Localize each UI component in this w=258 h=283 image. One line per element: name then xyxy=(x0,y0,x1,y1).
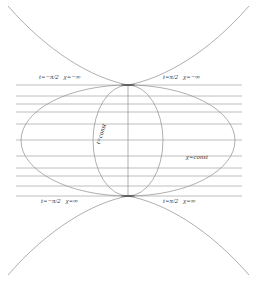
label-top-left-t: t=−π/2 xyxy=(39,73,59,80)
label-bottom-left: t=−π/2χ=∞ xyxy=(41,198,78,205)
label-top-right: t=π/2χ=−∞ xyxy=(163,74,200,81)
label-chi-const: χ=const xyxy=(186,154,208,161)
confocal-hyperbolas xyxy=(8,6,249,275)
hyperbola-t-const-lower-left xyxy=(8,196,128,275)
label-bottom-left-t: t=−π/2 xyxy=(41,197,61,204)
label-bottom-right-chi: χ=∞ xyxy=(183,197,195,204)
node-top xyxy=(121,84,135,86)
node-bottom xyxy=(121,195,135,197)
label-top-right-t: t=π/2 xyxy=(163,73,178,80)
horizontal-coordinate-lines xyxy=(16,85,242,196)
label-top-left: t=−π/2χ=−∞ xyxy=(39,74,81,81)
hyperbola-t-const-lower-right xyxy=(128,196,249,275)
coordinate-diagram xyxy=(0,0,258,283)
figure-container: t=−π/2χ=−∞ t=π/2χ=−∞ t=−π/2χ=∞ t=π/2χ=∞ … xyxy=(0,0,258,283)
label-bottom-right-t: t=π/2 xyxy=(163,197,178,204)
label-bottom-right: t=π/2χ=∞ xyxy=(163,198,196,205)
label-top-left-chi: χ=−∞ xyxy=(64,73,81,80)
label-bottom-left-chi: χ=∞ xyxy=(66,197,78,204)
label-top-right-chi: χ=−∞ xyxy=(183,73,200,80)
